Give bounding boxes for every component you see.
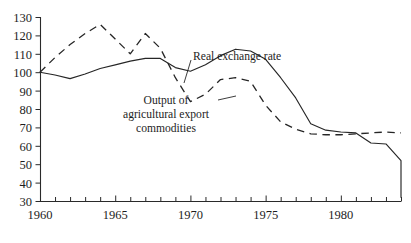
x-tick-labels: 19601965197019751980 <box>28 208 354 222</box>
x-axis: 19601965197019751980 <box>28 196 402 223</box>
leader-line-agricultural-output <box>218 96 236 100</box>
x-tick-label-1975: 1975 <box>253 208 278 222</box>
annotation-line-1: Output of <box>144 94 189 107</box>
line-chart: 30405060708090100110120130 1960196519701… <box>0 0 411 243</box>
x-tick-label-1965: 1965 <box>103 208 128 222</box>
annotation-line-3: commodities <box>136 122 196 135</box>
y-tick-marks <box>36 18 41 202</box>
series-agricultural-output <box>40 24 401 134</box>
y-tick-label-30: 30 <box>20 195 33 209</box>
series-real-exchange-rate <box>40 49 401 197</box>
y-tick-label-100: 100 <box>13 66 32 80</box>
y-tick-label-50: 50 <box>20 158 33 172</box>
annotation-line-2: agricultural export <box>123 108 210 121</box>
y-tick-label-120: 120 <box>13 29 32 43</box>
y-tick-label-70: 70 <box>20 121 33 135</box>
y-tick-label-130: 130 <box>13 11 32 25</box>
annotations: Real exchange rate Output of agricultura… <box>123 50 281 135</box>
y-tick-label-60: 60 <box>20 140 33 154</box>
y-tick-label-110: 110 <box>14 48 32 62</box>
y-tick-labels: 30405060708090100110120130 <box>13 11 32 209</box>
x-tick-marks <box>41 196 402 202</box>
annotation-agricultural-output: Output of agricultural export commoditie… <box>123 94 236 135</box>
y-tick-label-90: 90 <box>20 85 33 99</box>
y-tick-label-40: 40 <box>20 177 33 191</box>
x-tick-label-1960: 1960 <box>28 208 53 222</box>
chart-figure: 30405060708090100110120130 1960196519701… <box>0 0 411 243</box>
y-axis: 30405060708090100110120130 <box>13 11 40 209</box>
x-tick-label-1970: 1970 <box>178 208 203 222</box>
y-tick-label-80: 80 <box>20 103 33 117</box>
annotation-real-exchange-rate: Real exchange rate <box>193 50 281 63</box>
x-tick-label-1980: 1980 <box>328 208 353 222</box>
